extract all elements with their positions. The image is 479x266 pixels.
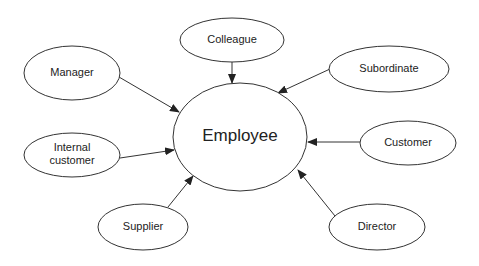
colleague-label: Colleague xyxy=(207,33,257,45)
manager-label: Manager xyxy=(50,66,94,78)
node-internal-customer[interactable]: Internalcustomer xyxy=(24,133,120,177)
employee-label: Employee xyxy=(202,126,278,145)
edge-supplier-to-employee xyxy=(168,176,193,207)
supplier-label: Supplier xyxy=(123,220,164,232)
customer-label: Customer xyxy=(384,136,432,148)
node-colleague[interactable]: Colleague xyxy=(180,18,284,62)
node-subordinate[interactable]: Subordinate xyxy=(329,46,449,92)
edge-subordinate-to-employee xyxy=(278,69,330,93)
edge-manager-to-employee xyxy=(119,77,179,112)
node-supplier[interactable]: Supplier xyxy=(98,204,188,250)
center-node-employee[interactable]: Employee xyxy=(173,83,307,191)
subordinate-label: Subordinate xyxy=(359,62,418,74)
internal-customer-label: customer xyxy=(49,154,95,166)
node-manager[interactable]: Manager xyxy=(24,46,120,100)
node-director[interactable]: Director xyxy=(329,204,425,250)
edge-director-to-employee xyxy=(298,170,335,216)
internal-customer-label: Internal xyxy=(54,141,91,153)
employee-stakeholder-diagram: ColleagueManagerSubordinateInternalcusto… xyxy=(0,0,479,266)
node-customer[interactable]: Customer xyxy=(360,121,456,165)
edge-internal-customer-to-employee xyxy=(120,150,174,158)
director-label: Director xyxy=(358,220,397,232)
